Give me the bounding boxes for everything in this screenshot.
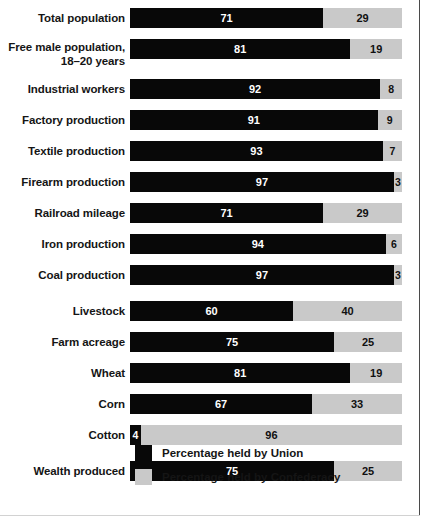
stacked-bar: 496 (130, 425, 402, 445)
bar-row-label-line: Textile production (28, 145, 125, 157)
bar-value-confederacy: 19 (370, 44, 382, 55)
legend-item: Percentage held by Union (135, 445, 415, 461)
bar-value-union: 71 (220, 13, 232, 24)
bar-row-label: Cotton (0, 428, 130, 442)
stacked-bar: 928 (130, 79, 402, 99)
bar-value-confederacy: 29 (356, 208, 368, 219)
bar-row: Wheat8119 (0, 363, 412, 383)
bar-segment-confederacy: 40 (293, 301, 402, 321)
bar-segment-confederacy: 29 (323, 203, 402, 223)
bar-segment-confederacy: 25 (334, 332, 402, 352)
bar-value-union: 97 (256, 177, 268, 188)
bar-row: Free male population,18–20 years8119 (0, 39, 412, 68)
bar-segment-confederacy: 8 (380, 79, 402, 99)
bar-row-label-line: Total population (38, 12, 125, 24)
bar-row: Total population7129 (0, 8, 412, 28)
bar-value-confederacy: 7 (390, 146, 396, 157)
bar-row: Coal production973 (0, 265, 412, 285)
bar-row-label-line: Industrial workers (28, 83, 125, 95)
bar-segment-union: 92 (130, 79, 380, 99)
bar-row-label-line: Livestock (73, 305, 125, 317)
bar-row: Livestock6040 (0, 301, 412, 321)
bar-row: Textile production937 (0, 141, 412, 161)
bar-segment-union: 4 (130, 425, 141, 445)
bar-row-label: Industrial workers (0, 82, 130, 96)
bar-value-confederacy: 29 (356, 13, 368, 24)
bar-row: Industrial workers928 (0, 79, 412, 99)
bar-segment-confederacy: 19 (350, 363, 402, 383)
stacked-bar: 919 (130, 110, 402, 130)
bar-row-label: Railroad mileage (0, 206, 130, 220)
bar-value-confederacy: 25 (362, 466, 374, 477)
bar-row-label: Wheat (0, 366, 130, 380)
bar-value-union: 81 (234, 44, 246, 55)
bar-value-union: 4 (133, 430, 139, 441)
chart-container: Total population7129Free male population… (0, 0, 430, 520)
bar-row-label: Total population (0, 11, 130, 25)
bar-row-label: Factory production (0, 113, 130, 127)
bar-value-union: 91 (248, 115, 260, 126)
bar-row-label-line: Free male population, (8, 41, 125, 53)
bar-row-label-line: Iron production (42, 238, 125, 250)
bar-segment-confederacy: 7 (383, 141, 402, 161)
bar-segment-confederacy: 3 (394, 172, 402, 192)
bar-rows: Total population7129Free male population… (0, 8, 412, 492)
stacked-bar: 937 (130, 141, 402, 161)
legend-label: Percentage held by Union (162, 446, 303, 460)
bar-value-confederacy: 19 (370, 368, 382, 379)
bar-segment-union: 71 (130, 203, 323, 223)
bar-row-label-line: Cotton (89, 429, 125, 441)
bar-value-confederacy: 96 (265, 430, 277, 441)
legend-swatch-union (135, 445, 152, 461)
bar-row: Cotton496 (0, 425, 412, 445)
stacked-bar: 8119 (130, 39, 402, 59)
bar-row-label: Livestock (0, 304, 130, 318)
bar-value-union: 71 (220, 208, 232, 219)
bar-row-label: Farm acreage (0, 335, 130, 349)
bar-segment-union: 93 (130, 141, 383, 161)
stacked-bar: 973 (130, 172, 402, 192)
bar-segment-confederacy: 9 (378, 110, 402, 130)
bar-segment-union: 97 (130, 265, 394, 285)
bar-value-union: 75 (226, 466, 238, 477)
stacked-bar: 7129 (130, 203, 402, 223)
stacked-bar: 7525 (130, 332, 402, 352)
bar-row-label-line: Wealth produced (33, 465, 125, 477)
bar-row-label: Corn (0, 397, 130, 411)
bar-segment-confederacy: 33 (312, 394, 402, 414)
bar-value-confederacy: 8 (388, 84, 394, 95)
bar-value-union: 94 (252, 239, 264, 250)
bar-value-confederacy: 3 (395, 177, 401, 188)
bar-row-label: Coal production (0, 268, 130, 282)
bar-row-label: Textile production (0, 144, 130, 158)
bar-value-confederacy: 40 (341, 306, 353, 317)
bar-value-union: 75 (226, 337, 238, 348)
bar-segment-union: 94 (130, 234, 386, 254)
bar-value-confederacy: 33 (351, 399, 363, 410)
bar-row: Railroad mileage7129 (0, 203, 412, 223)
bar-row-label-line: 18–20 years (61, 55, 125, 67)
stacked-bar: 6040 (130, 301, 402, 321)
bar-row-label-line: Railroad mileage (35, 207, 125, 219)
bar-segment-confederacy: 6 (386, 234, 402, 254)
bar-row: Factory production919 (0, 110, 412, 130)
bar-row-label-line: Farm acreage (51, 336, 125, 348)
stacked-bar: 7129 (130, 8, 402, 28)
bar-row: Corn6733 (0, 394, 412, 414)
bar-row-label-line: Coal production (38, 269, 125, 281)
bar-row: Iron production946 (0, 234, 412, 254)
stacked-bar: 8119 (130, 363, 402, 383)
bar-row: Firearm production973 (0, 172, 412, 192)
bar-segment-union: 81 (130, 39, 350, 59)
bar-value-confederacy: 25 (362, 337, 374, 348)
stacked-bar: 6733 (130, 394, 402, 414)
bar-segment-union: 91 (130, 110, 378, 130)
bar-row-label: Wealth produced (0, 464, 130, 478)
bar-row-label-line: Firearm production (21, 176, 125, 188)
bar-value-union: 81 (234, 368, 246, 379)
bar-segment-union: 60 (130, 301, 293, 321)
bar-row-label-line: Corn (99, 398, 125, 410)
bar-value-union: 93 (250, 146, 262, 157)
bar-value-confederacy: 3 (395, 270, 401, 281)
stacked-bar: 946 (130, 234, 402, 254)
